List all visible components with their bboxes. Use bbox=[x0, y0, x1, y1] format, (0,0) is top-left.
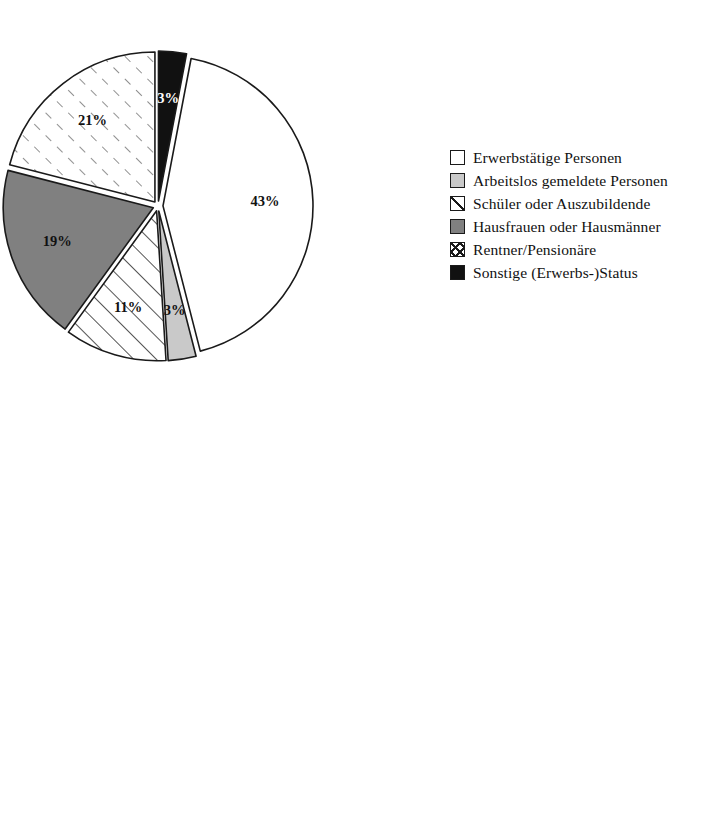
legend-item[interactable]: Erwerbstätige Personen bbox=[450, 146, 668, 169]
pie-slice-label: 11% bbox=[114, 299, 142, 315]
legend-swatch-icon bbox=[450, 196, 465, 211]
legend-item-label: Arbeitslos gemeldete Personen bbox=[473, 173, 668, 189]
pie-slice-label: 21% bbox=[78, 112, 107, 128]
legend-erwerbsstatus: Erwerbstätige PersonenArbeitslos gemelde… bbox=[450, 146, 668, 284]
pie-graphic-altersgruppen: 8%9%16%19%21%17%10% bbox=[0, 411, 440, 822]
legend-item[interactable]: Schüler oder Auszubildende bbox=[450, 192, 668, 215]
legend-item-label: Sonstige (Erwerbs-)Status bbox=[473, 265, 638, 281]
pie-slice-label: 19% bbox=[43, 233, 72, 249]
legend-swatch-icon bbox=[450, 219, 465, 234]
legend-swatch-icon bbox=[450, 173, 465, 188]
pie-chart-erwerbsstatus: 3%43%3%11%19%21% Erwerbstätige PersonenA… bbox=[0, 0, 720, 411]
legend-swatch-icon bbox=[450, 242, 465, 257]
pie-graphic-erwerbsstatus: 3%43%3%11%19%21% bbox=[0, 0, 430, 411]
legend-item-label: Schüler oder Auszubildende bbox=[473, 196, 650, 212]
legend-item[interactable]: Sonstige (Erwerbs-)Status bbox=[450, 261, 668, 284]
pie-slice-label: 43% bbox=[250, 193, 279, 209]
legend-item-label: Erwerbstätige Personen bbox=[473, 150, 622, 166]
legend-item-label: Hausfrauen oder Hausmänner bbox=[473, 219, 661, 235]
pie-chart-altersgruppen: 8%9%16%19%21%17%10% bis unter 20 Jahre20… bbox=[0, 411, 720, 822]
legend-swatch-icon bbox=[450, 150, 465, 165]
legend-swatch-icon bbox=[450, 265, 465, 280]
legend-item[interactable]: Rentner/Pensionäre bbox=[450, 238, 668, 261]
pie-slice-label: 3% bbox=[164, 302, 186, 318]
legend-item[interactable]: Arbeitslos gemeldete Personen bbox=[450, 169, 668, 192]
legend-item-label: Rentner/Pensionäre bbox=[473, 242, 596, 258]
pie-slice-label: 3% bbox=[157, 90, 179, 106]
legend-item[interactable]: Hausfrauen oder Hausmänner bbox=[450, 215, 668, 238]
